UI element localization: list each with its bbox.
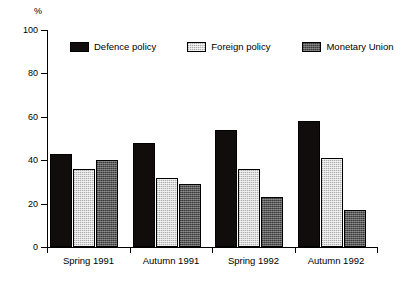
bar-foreign-policy [321, 158, 343, 247]
x-axis-category-label: Autumn 1991 [130, 255, 212, 267]
bar-monetary-union [96, 160, 118, 247]
y-axis-tick-label: 0 [14, 243, 38, 252]
x-axis-tick [130, 248, 131, 253]
bar-foreign-policy [156, 178, 178, 247]
y-axis-tick-label: 60 [14, 113, 38, 122]
y-axis-tick-label: 20 [14, 200, 38, 209]
y-axis-unit-label: % [34, 6, 42, 16]
x-axis-category-label: Spring 1992 [212, 255, 295, 267]
bar-monetary-union [344, 210, 366, 247]
x-axis-tick [377, 248, 378, 253]
bar-monetary-union [179, 184, 201, 247]
y-axis-tick-label: 80 [14, 69, 38, 78]
x-axis-category-label: Autumn 1992 [295, 255, 377, 267]
x-axis-category-label: Spring 1991 [47, 255, 130, 267]
y-axis-tick-label: 40 [14, 156, 38, 165]
x-axis-tick [212, 248, 213, 253]
x-axis-tick [295, 248, 296, 253]
bar-monetary-union [261, 197, 283, 247]
plot-area [47, 30, 377, 247]
bar-defence-policy [215, 130, 237, 247]
bar-defence-policy [298, 121, 320, 247]
bar-foreign-policy [238, 169, 260, 247]
x-axis-tick [47, 248, 48, 253]
y-axis-tick-label: 100 [14, 26, 38, 35]
bar-defence-policy [133, 143, 155, 247]
bar-foreign-policy [73, 169, 95, 247]
bar-defence-policy [50, 154, 72, 247]
bar-chart: % 100 80 60 40 20 0 Defence policy Forei… [0, 0, 402, 282]
